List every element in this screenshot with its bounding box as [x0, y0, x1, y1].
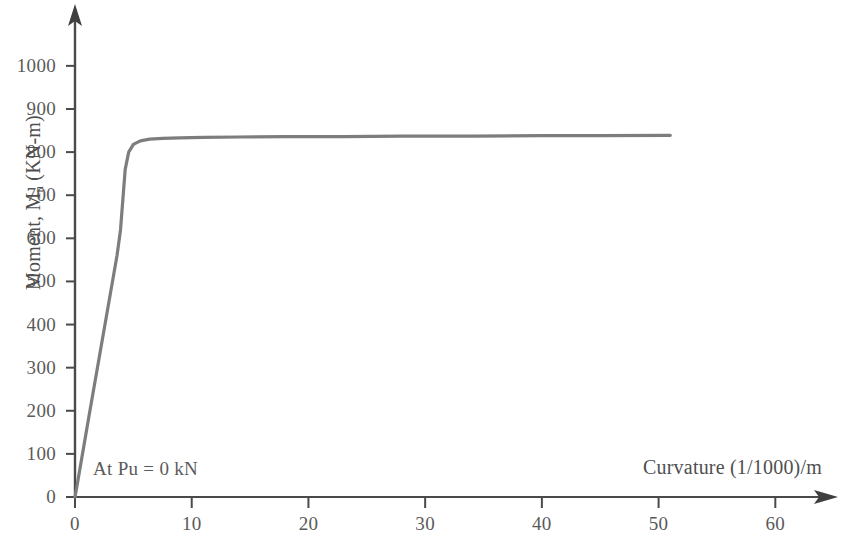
x-tick-label: 50 [649, 513, 669, 535]
chart-figure: 01002003004005006007008009001000 0102030… [0, 0, 850, 547]
y-tick-label: 200 [0, 400, 56, 422]
x-tick-label: 10 [182, 513, 202, 535]
y-axis-title: Moment, Mn (KN-m) [22, 73, 47, 333]
series-annotation: At Pu = 0 kN [93, 458, 198, 480]
x-tick-label: 40 [532, 513, 552, 535]
y-axis-title-units: (KN-m) [22, 115, 44, 186]
x-tick-label: 30 [415, 513, 435, 535]
x-axis-title: Curvature (1/1000)/m [643, 456, 822, 479]
data-series-group [75, 135, 670, 497]
y-axis-title-main: Moment, M [22, 193, 44, 290]
y-tick-label: 0 [0, 486, 56, 508]
x-tick-label: 0 [70, 513, 80, 535]
x-tick-label: 60 [766, 513, 786, 535]
y-tick-label: 300 [0, 357, 56, 379]
y-tick-label: 100 [0, 443, 56, 465]
data-series-line [75, 135, 670, 497]
y-axis-title-subscript: n [31, 186, 46, 193]
x-tick-label: 20 [299, 513, 319, 535]
